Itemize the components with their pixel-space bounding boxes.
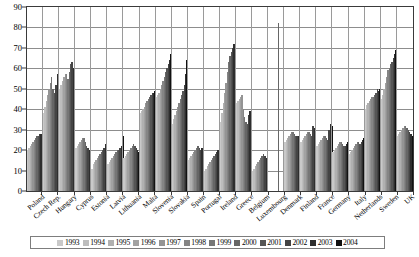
legend-item[interactable]: 2001 bbox=[260, 239, 282, 247]
legend-label: 1994 bbox=[90, 239, 105, 247]
legend-label: 1999 bbox=[217, 239, 232, 247]
x-tick-label: UK bbox=[403, 193, 416, 206]
legend-item[interactable]: 1997 bbox=[159, 239, 181, 247]
legend-item[interactable]: 1994 bbox=[83, 239, 105, 247]
legend-swatch bbox=[310, 240, 316, 246]
bar-group bbox=[156, 7, 172, 191]
legend-item[interactable]: 1999 bbox=[209, 239, 231, 247]
legend-swatch bbox=[234, 240, 240, 246]
legend-swatch bbox=[133, 240, 139, 246]
legend-swatch bbox=[336, 240, 342, 246]
bar-group bbox=[397, 7, 413, 191]
y-tick-label: 90 bbox=[14, 3, 23, 12]
legend-item[interactable]: 1995 bbox=[108, 239, 130, 247]
y-tick-label: 60 bbox=[14, 64, 23, 73]
legend-label: 2004 bbox=[343, 239, 358, 247]
bar-group bbox=[123, 7, 139, 191]
bar-group bbox=[27, 7, 43, 191]
bar-group bbox=[107, 7, 123, 191]
legend-label: 1996 bbox=[141, 239, 156, 247]
y-tick-label: 70 bbox=[14, 44, 23, 53]
legend-label: 1995 bbox=[115, 239, 130, 247]
bar-group bbox=[316, 7, 332, 191]
y-tick-label: 20 bbox=[14, 146, 23, 155]
bar-group bbox=[43, 7, 59, 191]
legend-item[interactable]: 2000 bbox=[234, 239, 256, 247]
legend-item[interactable]: 2003 bbox=[310, 239, 332, 247]
legend-label: 2002 bbox=[292, 239, 307, 247]
bar-group bbox=[204, 7, 220, 191]
bar bbox=[412, 136, 413, 191]
legend-swatch bbox=[285, 240, 291, 246]
bar-group bbox=[300, 7, 316, 191]
y-tick-label: 10 bbox=[14, 166, 23, 175]
bar-group bbox=[268, 7, 284, 191]
bar-group bbox=[252, 7, 268, 191]
legend-label: 2001 bbox=[267, 239, 282, 247]
bar-group bbox=[188, 7, 204, 191]
legend-label: 1993 bbox=[65, 239, 80, 247]
legend-swatch bbox=[184, 240, 190, 246]
legend-item[interactable]: 1993 bbox=[57, 239, 79, 247]
legend-label: 1998 bbox=[191, 239, 206, 247]
y-axis-labels: 0102030405060708090 bbox=[0, 6, 24, 192]
bar-group bbox=[236, 7, 252, 191]
bar-group bbox=[91, 7, 107, 191]
bar-group bbox=[332, 7, 348, 191]
bar-group bbox=[381, 7, 397, 191]
bar-group bbox=[59, 7, 75, 191]
bar bbox=[278, 23, 279, 191]
y-tick-label: 50 bbox=[14, 85, 23, 94]
bar-group bbox=[220, 7, 236, 191]
bar-group bbox=[349, 7, 365, 191]
legend-item[interactable]: 1998 bbox=[184, 239, 206, 247]
bar-group bbox=[365, 7, 381, 191]
bar-group bbox=[172, 7, 188, 191]
legend-item[interactable]: 2004 bbox=[336, 239, 358, 247]
bar-group bbox=[75, 7, 91, 191]
y-tick-label: 80 bbox=[14, 23, 23, 32]
legend-swatch bbox=[260, 240, 266, 246]
bar-group bbox=[284, 7, 300, 191]
legend-swatch bbox=[108, 240, 114, 246]
legend-item[interactable]: 1996 bbox=[133, 239, 155, 247]
legend-label: 2003 bbox=[318, 239, 333, 247]
legend-item[interactable]: 2002 bbox=[285, 239, 307, 247]
legend-swatch bbox=[83, 240, 89, 246]
bar-groups bbox=[27, 7, 413, 191]
plot-area bbox=[26, 6, 414, 192]
x-axis-labels: PolandCzech Rep.HungaryCyprusEstoniaLatv… bbox=[26, 193, 414, 229]
legend: 1993199419951996199719981999200020012002… bbox=[30, 236, 385, 249]
y-tick-label: 30 bbox=[14, 125, 23, 134]
y-tick-label: 40 bbox=[14, 105, 23, 114]
legend-label: 2000 bbox=[242, 239, 257, 247]
legend-label: 1997 bbox=[166, 239, 181, 247]
legend-swatch bbox=[159, 240, 165, 246]
bar-group bbox=[140, 7, 156, 191]
bar-chart: 0102030405060708090 PolandCzech Rep.Hung… bbox=[0, 0, 419, 257]
legend-swatch bbox=[57, 240, 63, 246]
legend-swatch bbox=[209, 240, 215, 246]
